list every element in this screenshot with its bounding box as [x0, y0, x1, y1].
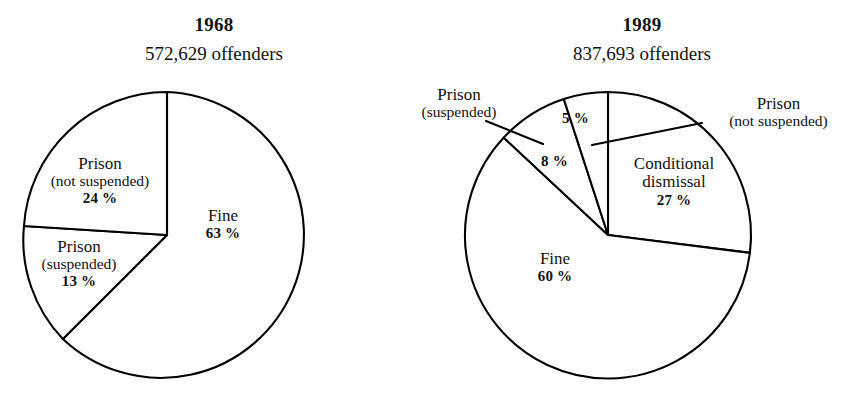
- pie-pct-prison-suspended-1989: 8 %: [541, 153, 568, 170]
- pie-label-fine-1989: Fine 60 %: [500, 250, 610, 285]
- pie-label-conditional-dismissal-1989: Conditional dismissal 27 %: [610, 155, 738, 208]
- pie-callout-prison-not-suspended-1989: Prison (not suspended): [706, 95, 851, 130]
- pie-pct-prison-not-suspended-1989: 5 %: [562, 110, 589, 127]
- pie-chart-figure: 1968 572,629 offenders Fine 63 % Prison …: [0, 0, 856, 399]
- pie-callout-prison-suspended-1989: Prison (suspended): [404, 86, 514, 121]
